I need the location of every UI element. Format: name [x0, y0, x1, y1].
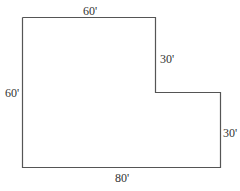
top-dimension-label: 60' — [83, 5, 97, 17]
inner-vertical-dimension-label: 30' — [160, 53, 174, 65]
l-shape-diagram — [0, 0, 240, 191]
left-dimension-label: 60' — [5, 87, 19, 99]
right-dimension-label: 30' — [223, 127, 237, 139]
l-shape-outline — [23, 18, 221, 168]
bottom-dimension-label: 80' — [115, 172, 129, 184]
